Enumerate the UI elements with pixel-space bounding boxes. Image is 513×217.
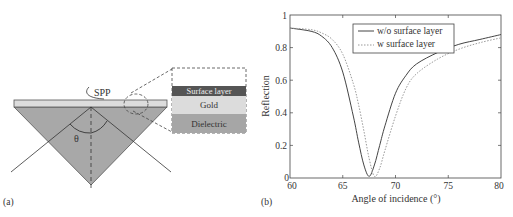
spp-label: SPP: [94, 87, 111, 98]
legend-item-2: w surface layer: [377, 39, 436, 49]
x-axis-label: Angle of incidence (°): [351, 193, 440, 205]
svg-text:80: 80: [494, 181, 504, 191]
y-tick-labels: 0 0.2 0.4 0.6 0.8 1: [275, 11, 289, 183]
figure: θ SPP Surface layer Gold Dielectric (a): [0, 0, 513, 217]
svg-text:0.2: 0.2: [275, 141, 287, 151]
panel-b: 60 65 70 75 80 0 0.2 0.4 0.6 0.8 1 Angle…: [260, 11, 504, 208]
gold-label: Gold: [200, 100, 219, 110]
y-axis-label: Reflection: [260, 75, 271, 117]
svg-text:0.8: 0.8: [275, 43, 287, 53]
surface-layer-label: Surface layer: [186, 86, 231, 96]
prism: [14, 107, 167, 185]
panel-a-label: (a): [3, 197, 14, 208]
svg-text:70: 70: [391, 181, 401, 191]
legend-item-1: w/o surface layer: [377, 26, 443, 36]
svg-text:0: 0: [284, 173, 289, 183]
svg-text:65: 65: [338, 181, 348, 191]
dielectric-label: Dielectric: [191, 119, 226, 129]
layer-inset: Surface layer Gold Dielectric: [172, 68, 246, 133]
x-tick-labels: 60 65 70 75 80: [287, 181, 504, 191]
svg-text:75: 75: [444, 181, 454, 191]
angle-label: θ: [74, 133, 79, 144]
svg-text:1: 1: [282, 11, 287, 21]
panel-b-label: (b): [261, 197, 272, 208]
legend: w/o surface layer w surface layer: [353, 24, 454, 53]
panel-a: θ SPP Surface layer Gold Dielectric (a): [3, 68, 246, 208]
gold-film: [14, 100, 167, 107]
svg-text:0.4: 0.4: [275, 108, 287, 118]
svg-text:0.6: 0.6: [275, 76, 287, 86]
